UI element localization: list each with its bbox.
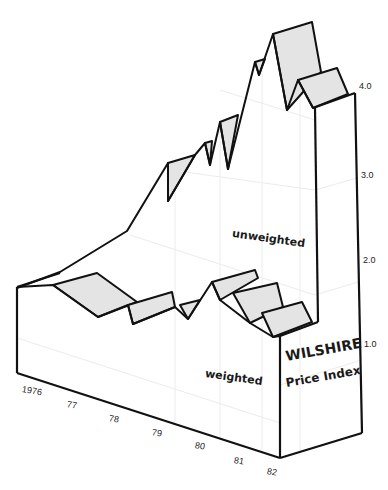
- x-tick-81: 81: [233, 455, 245, 467]
- x-tick-82: 82: [266, 466, 278, 478]
- x-tick-79: 79: [151, 427, 163, 439]
- y-tick-3: 3.0: [361, 170, 374, 180]
- y-tick-4: 4.0: [359, 81, 372, 91]
- x-tick-77: 77: [66, 399, 78, 411]
- grid-lines: [17, 70, 362, 455]
- y-tick-1: 1.0: [364, 339, 377, 349]
- x-tick-80: 80: [194, 440, 206, 452]
- x-tick-78: 78: [108, 413, 120, 425]
- y-tick-2: 2.0: [363, 255, 376, 265]
- unweighted-series-line: [17, 34, 313, 288]
- unweighted-ribbon-fills: [168, 22, 348, 201]
- weighted-ribbon-fills: [53, 270, 312, 337]
- chart-canvas: [0, 0, 388, 490]
- wilshire-price-index-chart: unweighted weighted WILSHIRE Price Index…: [0, 0, 388, 490]
